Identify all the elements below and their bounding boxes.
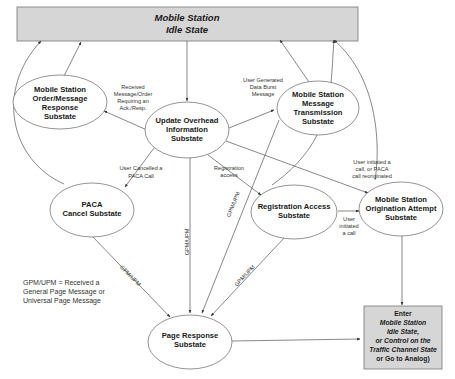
svg-text:Message: Message: [252, 91, 275, 97]
svg-text:Enter: Enter: [394, 310, 412, 317]
label-user-generated: User Generated Data Burst Message: [243, 77, 283, 97]
edge-registration-to-page: [211, 237, 285, 316]
state-diagram: Mobile Station Idle State: [0, 0, 455, 379]
svg-text:or Control on the: or Control on the: [375, 337, 430, 344]
edge-order-to-idle: [64, 42, 81, 76]
svg-text:call, or PACA: call, or PACA: [356, 166, 389, 172]
svg-text:call reoriginated: call reoriginated: [352, 173, 392, 179]
svg-text:Registration: Registration: [214, 165, 244, 171]
node-order-response: Mobile Station Order/Message Response Su…: [13, 75, 107, 129]
label-gpm-upm-update: GPM/UPM: [184, 228, 190, 255]
svg-text:Universal Page Message: Universal Page Message: [23, 297, 101, 305]
svg-text:Mobile Station: Mobile Station: [292, 90, 344, 99]
legend: GPM/UPM = Received a General Page Messag…: [23, 279, 105, 305]
svg-text:Substate: Substate: [44, 112, 76, 121]
edge-page-to-exit: [232, 339, 360, 341]
svg-text:Message: Message: [302, 99, 334, 108]
svg-text:Message/Order: Message/Order: [114, 91, 153, 97]
edge-update-to-transmission: [229, 110, 274, 128]
svg-text:User initiated a: User initiated a: [353, 159, 391, 165]
svg-text:Registration Access: Registration Access: [258, 202, 331, 211]
svg-text:Order/Message: Order/Message: [33, 94, 88, 103]
svg-text:Idle State,: Idle State,: [387, 328, 419, 336]
svg-text:User Generated: User Generated: [243, 77, 283, 83]
svg-text:Substate: Substate: [385, 213, 417, 222]
svg-text:Update Overhead: Update Overhead: [156, 116, 219, 125]
node-message-transmission: Mobile Station Message Transmission Subs…: [277, 81, 359, 135]
svg-text:initiated: initiated: [339, 223, 358, 229]
svg-text:Origination Attempt: Origination Attempt: [365, 204, 436, 213]
svg-text:User Cancelled a: User Cancelled a: [120, 165, 164, 171]
svg-text:Mobile Station: Mobile Station: [375, 195, 427, 204]
idle-state-box: Mobile Station Idle State: [17, 7, 358, 41]
svg-text:Response: Response: [42, 103, 78, 112]
edge-transmission-to-idle: [280, 40, 309, 82]
node-page-response: Page Response Substate: [148, 315, 232, 369]
svg-text:Cancel Substate: Cancel Substate: [62, 209, 121, 218]
svg-text:a call: a call: [342, 230, 355, 236]
node-origination-attempt: Mobile Station Origination Attempt Subst…: [359, 182, 443, 236]
svg-text:Substate: Substate: [171, 134, 203, 143]
svg-text:User: User: [343, 216, 355, 222]
svg-text:Information: Information: [166, 125, 208, 134]
edge-update-to-order: [104, 111, 147, 130]
svg-text:General Page Message or: General Page Message or: [23, 288, 105, 296]
svg-text:Page Response: Page Response: [162, 331, 219, 340]
node-paca-cancel: PACA Cancel Substate: [50, 183, 134, 237]
svg-text:Received: Received: [121, 84, 144, 90]
svg-text:Substate: Substate: [174, 340, 206, 349]
svg-text:or Go to Analog): or Go to Analog): [376, 355, 429, 363]
svg-text:Data Burst: Data Burst: [250, 84, 277, 90]
svg-text:Mobile Station: Mobile Station: [34, 85, 86, 94]
svg-text:Transmission: Transmission: [294, 108, 343, 117]
node-update-overhead: Update Overhead Information Substate: [145, 102, 229, 158]
svg-text:Traffic Channel State: Traffic Channel State: [369, 346, 437, 353]
svg-text:Substate: Substate: [302, 117, 334, 126]
exit-box: Enter Mobile Station Idle State, or Cont…: [364, 306, 442, 369]
label-user-cancelled: User Cancelled a PACA Call: [120, 165, 164, 179]
svg-text:Substate: Substate: [278, 211, 310, 220]
svg-text:PACA Call: PACA Call: [128, 173, 154, 179]
label-gpm-upm-paca: GPM/UPM: [119, 264, 142, 287]
label-user-initiated: User initiated a call: [339, 216, 358, 236]
idle-state-title-line2: Idle State: [166, 24, 209, 35]
label-gpm-upm-transmission: GPM/UPM: [225, 190, 241, 217]
label-gpm-upm-registration: GPM/UPM: [233, 264, 256, 288]
node-registration-access: Registration Access Substate: [251, 185, 337, 239]
svg-text:GPM/UPM = Received a: GPM/UPM = Received a: [23, 279, 100, 286]
svg-text:access: access: [220, 172, 238, 178]
idle-state-title-line1: Mobile Station: [155, 12, 220, 23]
svg-text:Requiring an: Requiring an: [117, 98, 149, 104]
svg-text:PACA: PACA: [82, 200, 103, 209]
svg-text:Mobile Station: Mobile Station: [380, 319, 426, 326]
label-user-initiated-paca: User initiated a call, or PACA call reor…: [352, 159, 392, 179]
svg-text:Ack./Resp.: Ack./Resp.: [119, 105, 146, 111]
label-registration: Registration access: [214, 165, 244, 178]
label-received-message: Received Message/Order Requiring an Ack.…: [114, 84, 153, 111]
